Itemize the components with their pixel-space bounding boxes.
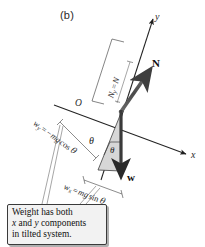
x-axis-label: x — [191, 150, 195, 160]
callout-and-text: and — [16, 218, 34, 228]
normal-force-label: N — [152, 58, 160, 69]
callout-line-2: x and y components — [12, 218, 102, 229]
y-axis-label: y — [155, 12, 159, 22]
interior-angle-label: θ — [110, 146, 114, 155]
component-triangle — [98, 113, 121, 171]
normal-force-vector — [120, 70, 150, 113]
callout-line-3: in tilted system. — [12, 229, 102, 240]
origin-label: O — [75, 99, 82, 109]
incline-angle-label: θ — [89, 136, 94, 146]
callout-box: Weight has both x and y components in ti… — [7, 204, 107, 245]
weight-label: w — [127, 172, 135, 183]
physics-free-body-diagram: (b) y x O N w θ θ Ny=N wy=−mgcosθ wx=mgs… — [0, 0, 205, 247]
callout-components-text: components — [39, 218, 87, 228]
panel-label: (b) — [60, 9, 74, 21]
callout-line-1: Weight has both — [12, 207, 102, 218]
